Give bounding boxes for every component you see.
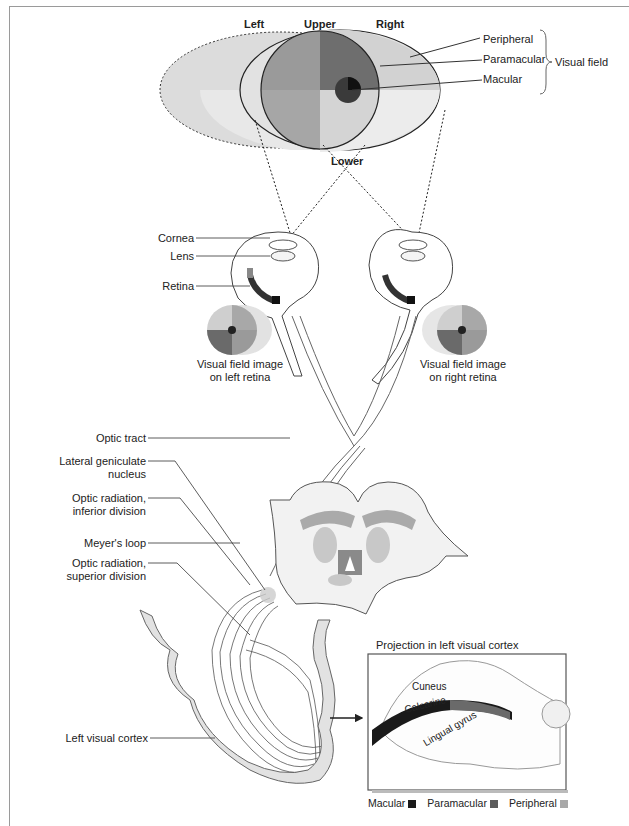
label-line: Optic radiation,: [20, 557, 146, 570]
caption-left-retina: Visual field image on left retina: [190, 358, 290, 384]
label-meyers-loop: Meyer's loop: [20, 537, 146, 550]
label-optic-radiation-inferior: Optic radiation, inferior division: [20, 492, 146, 518]
inset-title: Projection in left visual cortex: [376, 639, 518, 652]
legend-swatch-peripheral: [560, 800, 568, 808]
direction-lower: Lower: [331, 155, 363, 168]
optic-radiation: [212, 590, 324, 773]
region-cuneus: Cuneus: [412, 680, 446, 693]
direction-upper: Upper: [304, 18, 336, 31]
legend-swatch-macular: [408, 800, 416, 808]
caption-line: on right retina: [408, 371, 518, 384]
label-line: Optic radiation,: [20, 492, 146, 505]
label-line: inferior division: [20, 505, 146, 518]
label-line: superior division: [20, 570, 146, 583]
legend-label: Peripheral: [509, 797, 557, 809]
label-retina: Retina: [130, 280, 194, 293]
midbrain-section: [270, 482, 468, 614]
legend-item-macular: Macular: [368, 797, 421, 809]
zone-peripheral: Peripheral: [483, 33, 533, 46]
label-left-visual-cortex: Left visual cortex: [20, 732, 148, 745]
legend-label: Macular: [368, 797, 405, 809]
left-retina-field-image: [207, 305, 272, 355]
visual-field-group-label: Visual field: [555, 56, 608, 69]
legend-item-paramacular: Paramacular: [427, 797, 503, 809]
caption-line: on left retina: [190, 371, 290, 384]
direction-right: Right: [376, 18, 404, 31]
right-retina-field-image: [422, 305, 487, 355]
label-lens: Lens: [130, 250, 194, 263]
label-lgn: Lateral geniculate nucleus: [20, 455, 146, 481]
direction-left: Left: [244, 18, 264, 31]
zone-macular: Macular: [483, 73, 522, 86]
caption-right-retina: Visual field image on right retina: [408, 358, 518, 384]
label-cornea: Cornea: [130, 232, 194, 245]
caption-line: Visual field image: [408, 358, 518, 371]
caption-line: Visual field image: [190, 358, 290, 371]
legend-swatch-paramacular: [490, 800, 498, 808]
legend-item-peripheral: Peripheral: [509, 797, 573, 809]
legend-label: Paramacular: [427, 797, 487, 809]
legend: Macular Paramacular Peripheral: [368, 797, 573, 809]
label-line: nucleus: [20, 468, 146, 481]
label-optic-radiation-superior: Optic radiation, superior division: [20, 557, 146, 583]
label-optic-tract: Optic tract: [20, 432, 146, 445]
zone-paramacular: Paramacular: [483, 53, 545, 66]
lgn-graphic: [260, 587, 276, 603]
label-line: Lateral geniculate: [20, 455, 146, 468]
